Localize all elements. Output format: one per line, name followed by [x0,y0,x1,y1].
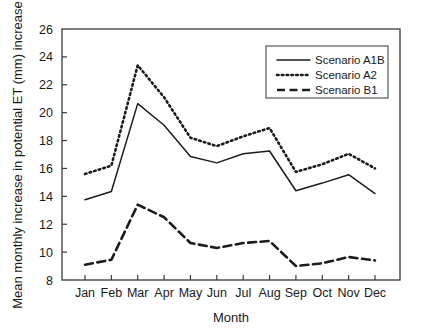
x-tick-label: Sep [285,286,307,300]
x-tick-label: Feb [101,286,123,300]
y-tick-label: 10 [39,246,53,260]
y-tick-label: 22 [39,78,53,92]
x-tick-label: Dec [364,286,386,300]
legend-label: Scenario A1B [315,54,385,66]
chart-figure: 8101214161820222426 JanFebMarAprMayJunJu… [0,0,424,333]
y-tick-label: 12 [39,218,53,232]
x-tick-label: Mar [127,286,149,300]
y-tick-label: 18 [39,134,53,148]
x-tick-label: Jul [235,286,251,300]
x-tick-label: Oct [313,286,333,300]
line-chart: 8101214161820222426 JanFebMarAprMayJunJu… [0,0,424,333]
y-tick-label: 20 [39,106,53,120]
legend-label: Scenario A2 [315,69,377,81]
x-tick-label: Jan [75,286,95,300]
x-tick-label: Jun [207,286,227,300]
y-tick-label: 16 [39,162,53,176]
chart-legend: Scenario A1BScenario A2Scenario B1 [266,46,388,98]
x-axis-title: Month [213,310,249,325]
y-tick-label: 14 [39,190,53,204]
x-tick-label: Nov [338,286,361,300]
x-tick-label: Aug [258,286,280,300]
y-tick-label: 8 [46,274,53,288]
y-axis-title: Mean monthly increase in potential ET (m… [10,1,25,309]
legend-label: Scenario B1 [315,84,378,96]
y-tick-label: 26 [39,23,53,37]
x-tick-label: Apr [154,286,173,300]
y-tick-label: 24 [39,50,53,64]
x-tick-label: May [179,286,203,300]
